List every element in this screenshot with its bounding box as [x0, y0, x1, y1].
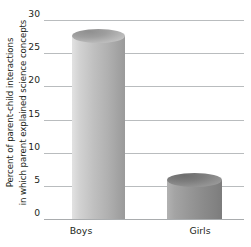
y-tick-label-5: 5	[20, 175, 40, 184]
gridline-0-baseline	[44, 219, 244, 220]
y-tick-label-10: 10	[20, 142, 40, 151]
y-tick-label-20: 20	[20, 75, 40, 84]
bar-boys-cap	[72, 29, 125, 43]
x-tick-label-girls: Girls	[164, 226, 236, 236]
y-tick-label-15: 15	[20, 109, 40, 118]
bar-chart: Percent of parent-child interactions in …	[0, 0, 251, 247]
y-tick-label-25: 25	[20, 42, 40, 51]
bar-boys[interactable]	[72, 29, 125, 219]
gridline-30	[44, 20, 244, 21]
y-tick-label-30: 30	[20, 9, 40, 18]
bar-boys-body	[72, 36, 125, 219]
plot-area: 30 25 20 15 10 5 0	[44, 20, 244, 219]
y-axis-title-line-1: Percent of parent-child interactions	[4, 20, 17, 206]
bar-girls[interactable]	[167, 173, 222, 219]
y-tick-label-0: 0	[20, 208, 40, 217]
x-tick-label-boys: Boys	[48, 226, 114, 236]
